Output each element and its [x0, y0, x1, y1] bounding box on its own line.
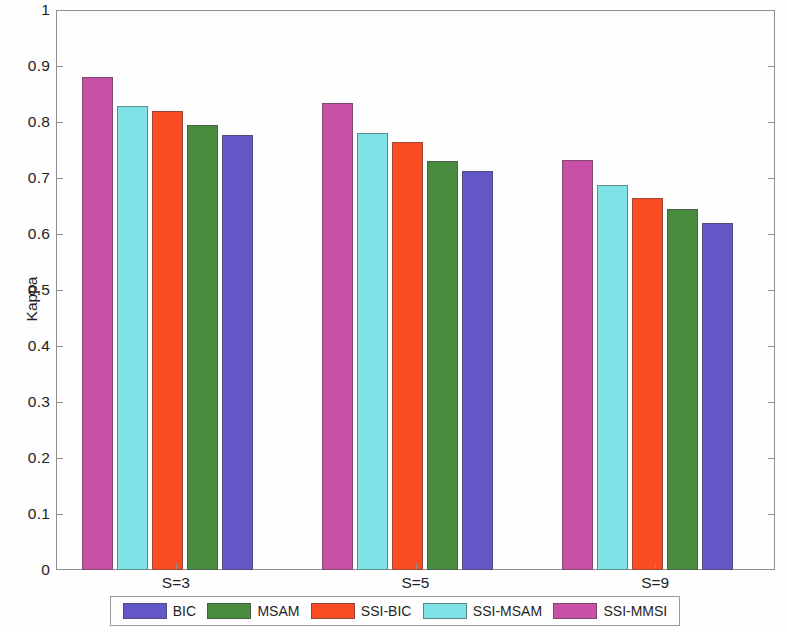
bar-bic-S3	[222, 135, 253, 570]
legend-entry-ssi-msam: SSI-MSAM	[423, 603, 542, 619]
bar-bic-S5	[462, 171, 493, 570]
x-axis-tick-label: S=9	[595, 574, 715, 592]
legend-label: SSI-BIC	[361, 603, 412, 619]
y-axis-tick-mark	[768, 234, 774, 235]
y-axis-tick-label: 0.8	[0, 113, 50, 131]
bar-msam-S9	[667, 209, 698, 570]
bar-chart-figure: 00.10.20.30.40.50.60.70.80.91 Kappa S=3S…	[0, 0, 787, 632]
y-axis-tick-mark	[57, 122, 63, 123]
bar-bic-S9	[702, 223, 733, 570]
legend-label: SSI-MSAM	[473, 603, 542, 619]
bar-ssi-mmsi-S9	[562, 160, 593, 570]
y-axis-tick-mark	[57, 234, 63, 235]
y-axis-label: Kappa	[23, 239, 41, 359]
x-axis-tick-label: S=5	[356, 574, 476, 592]
legend-swatch-ssi-mmsi	[553, 603, 597, 619]
bar-ssi-bic-S3	[152, 111, 183, 570]
y-axis-tick-mark	[57, 66, 63, 67]
chart-legend: BICMSAMSSI-BICSSI-MSAMSSI-MMSI	[110, 596, 680, 626]
x-axis-tick-mark	[176, 563, 177, 569]
y-axis-tick-label: 0.9	[0, 57, 50, 75]
y-axis-tick-mark	[57, 458, 63, 459]
legend-label: BIC	[173, 603, 196, 619]
bar-ssi-mmsi-S3	[82, 77, 113, 570]
x-axis-tick-mark	[416, 563, 417, 569]
legend-entry-bic: BIC	[123, 603, 196, 619]
y-axis-tick-label: 1	[0, 1, 50, 19]
bar-ssi-msam-S9	[597, 185, 628, 570]
x-axis-tick-label: S=3	[116, 574, 236, 592]
y-axis-tick-mark	[57, 178, 63, 179]
y-axis-tick-mark	[768, 346, 774, 347]
y-axis-tick-mark	[57, 402, 63, 403]
y-axis-tick-label: 0.7	[0, 169, 50, 187]
y-axis-tick-mark	[768, 458, 774, 459]
legend-swatch-bic	[123, 603, 167, 619]
y-axis-tick-mark	[57, 346, 63, 347]
legend-entry-ssi-bic: SSI-BIC	[311, 603, 412, 619]
bar-msam-S5	[427, 161, 458, 570]
y-axis-tick-mark	[768, 514, 774, 515]
y-axis-tick-mark	[768, 178, 774, 179]
legend-label: SSI-MMSI	[603, 603, 667, 619]
y-axis-tick-label: 0.1	[0, 505, 50, 523]
bar-ssi-bic-S5	[392, 142, 423, 570]
bar-ssi-mmsi-S5	[322, 103, 353, 570]
bar-ssi-msam-S5	[357, 133, 388, 570]
legend-swatch-msam	[207, 603, 251, 619]
y-axis-tick-mark	[768, 402, 774, 403]
y-axis-tick-mark	[57, 514, 63, 515]
bar-ssi-msam-S3	[117, 106, 148, 570]
y-axis-tick-label: 0.3	[0, 393, 50, 411]
legend-label: MSAM	[257, 603, 299, 619]
legend-swatch-ssi-bic	[311, 603, 355, 619]
y-axis-tick-label: 0	[0, 561, 50, 579]
x-axis-tick-mark	[655, 563, 656, 569]
y-axis-tick-mark	[768, 66, 774, 67]
y-axis-tick-mark	[768, 290, 774, 291]
legend-entry-ssi-mmsi: SSI-MMSI	[553, 603, 667, 619]
y-axis-tick-label: 0.2	[0, 449, 50, 467]
bar-ssi-bic-S9	[632, 198, 663, 570]
y-axis-tick-mark	[768, 122, 774, 123]
y-axis-tick-mark	[57, 290, 63, 291]
bar-msam-S3	[187, 125, 218, 570]
legend-swatch-ssi-msam	[423, 603, 467, 619]
legend-entry-msam: MSAM	[207, 603, 299, 619]
